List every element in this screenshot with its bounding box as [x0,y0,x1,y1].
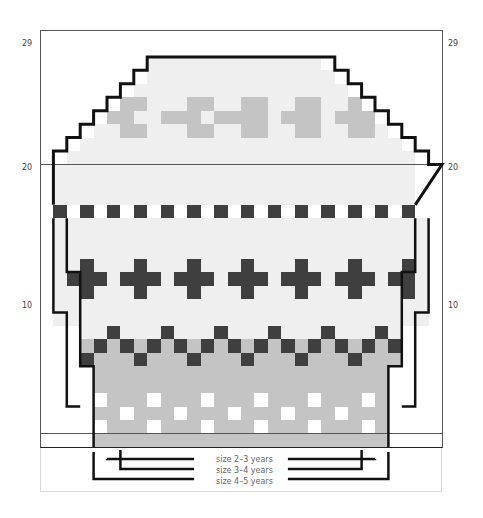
size-outline-overlay [0,0,483,518]
